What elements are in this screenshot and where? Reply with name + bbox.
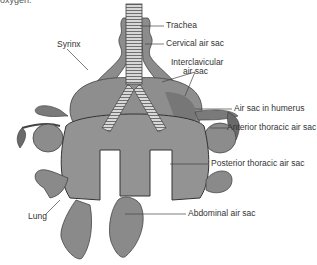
label-posterior-thoracic-air-sac: Posterior thoracic air sac	[211, 159, 305, 168]
label-anterior-thoracic-air-sac: Anterior thoracic air sac	[227, 123, 316, 132]
trachea	[126, 4, 142, 84]
label-interclavicular-line2: air sac	[183, 67, 208, 76]
anterior-thoracic-sac-left	[33, 124, 63, 152]
label-lung: Lung	[28, 212, 47, 221]
posterior-thoracic-sac-right	[206, 171, 232, 193]
label-trachea: Trachea	[166, 21, 197, 30]
label-air-sac-in-humerus: Air sac in humerus	[234, 104, 304, 113]
label-abdominal-air-sac: Abdominal air sac	[188, 209, 256, 218]
abdominal-air-sac-right	[110, 197, 144, 257]
label-syrinx: Syrinx	[57, 40, 81, 49]
humerus-sac-left	[35, 106, 68, 117]
label-cervical-air-sac: Cervical air sac	[166, 39, 224, 48]
lungs	[61, 114, 209, 200]
avian-air-sac-illustration	[0, 0, 317, 265]
abdominal-air-sac-left	[61, 200, 92, 259]
